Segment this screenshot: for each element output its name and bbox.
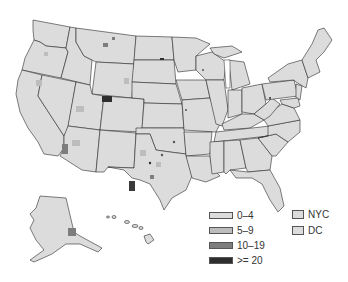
state-indiana [228, 90, 242, 118]
state-michigan [228, 60, 250, 90]
legend-swatch [292, 210, 304, 219]
legend-label: 10–19 [237, 240, 265, 251]
legend-item-nyc: NYC [292, 209, 329, 220]
legend-label: >= 20 [237, 255, 263, 266]
legend-swatch [209, 227, 233, 234]
legend-item-dc: DC [292, 225, 322, 236]
alaska-shaded-region [68, 228, 76, 236]
legend-swatch [292, 226, 304, 235]
state-florida [230, 170, 284, 212]
contiguous-us [16, 20, 332, 212]
state-south-dakota [132, 60, 176, 84]
state-pennsylvania [262, 80, 298, 100]
legend-label: 0–4 [237, 210, 254, 221]
legend-item-0-4: 0–4 [209, 210, 254, 221]
state-arkansas [184, 132, 212, 156]
state-alaska [30, 196, 102, 262]
legend-swatch [209, 242, 233, 249]
state-kansas [142, 103, 184, 128]
us-choropleth-map [0, 0, 348, 282]
state-iowa [176, 80, 210, 100]
state-new-jersey [296, 84, 302, 100]
state-mississippi [210, 141, 224, 174]
legend-label: 5–9 [237, 225, 254, 236]
legend-label: DC [308, 225, 322, 236]
legend-swatch [209, 257, 233, 264]
state-new-mexico [96, 130, 136, 172]
legend-swatch [209, 212, 233, 219]
state-north-dakota [134, 36, 174, 60]
lake-michigan [224, 60, 230, 88]
legend-item-10-19: 10–19 [209, 240, 265, 251]
legend-item-20-plus: >= 20 [209, 255, 263, 266]
legend-item-5-9: 5–9 [209, 225, 254, 236]
legend-label: NYC [308, 209, 329, 220]
state-new-england [302, 28, 332, 78]
state-hawaii [107, 216, 155, 245]
